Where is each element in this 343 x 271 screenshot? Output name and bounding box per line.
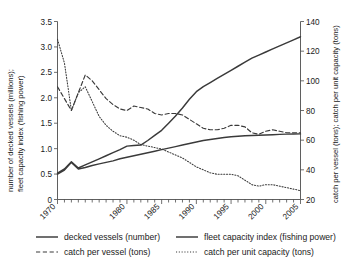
x-tick-label-group: 1970	[38, 202, 58, 222]
x-tick-label: 2000	[246, 202, 266, 222]
x-tick-label-group: 1980	[108, 202, 128, 222]
legend-label-3: catch per unit capacity (tons)	[204, 247, 314, 257]
y-tick-label: 1.5	[41, 119, 53, 128]
x-tick-label-group: 1995	[212, 202, 232, 222]
x-tick-label: 1980	[108, 202, 128, 222]
tick-labels-layer: 00.51.01.52.02.53.03.5204060801001201401…	[38, 18, 320, 222]
axes-layer	[58, 22, 301, 200]
y2-tick-label: 140	[306, 18, 320, 27]
chart-figure: number of decked vessels (millions); fle…	[0, 0, 343, 271]
y-axis-title-line2: fleet capacity index (fishing power)	[16, 75, 25, 192]
legend-label-0: decked vessels (number)	[64, 232, 160, 242]
y-tick-label: 3.5	[41, 18, 53, 27]
y2-tick-label: 100	[306, 77, 320, 86]
y-tick-label: 2.0	[41, 94, 53, 103]
series-line-0	[58, 134, 301, 174]
y2-tick-label: 20	[306, 196, 316, 205]
y-tick-label: 3.0	[41, 43, 53, 52]
y-tick-label: 0.5	[41, 170, 53, 179]
y-axis-title: number of decked vessels (millions); fle…	[6, 69, 25, 192]
y2-axis-title: catch per vessel (tons); catch per unit …	[331, 25, 340, 203]
legend-label-2: catch per vessel (tons)	[64, 247, 151, 257]
x-tick-label: 1995	[212, 202, 232, 222]
x-tick-label: 2005	[281, 202, 301, 222]
y2-tick-label: 60	[306, 136, 316, 145]
y2-tick-label: 40	[306, 166, 316, 175]
x-tick-label-group: 1990	[177, 202, 197, 222]
y-axis-title-line1: number of decked vessels (millions);	[6, 69, 15, 192]
legend-label-1: fleet capacity index (fishing power)	[204, 232, 336, 242]
y-tick-label: 1.0	[41, 145, 53, 154]
series-line-3	[58, 39, 301, 190]
x-tick-label-group: 2000	[246, 202, 266, 222]
y2-tick-label: 120	[306, 47, 320, 56]
x-tick-label: 1985	[142, 202, 162, 222]
y2-axis-title-text: catch per vessel (tons); catch per unit …	[331, 25, 340, 203]
y2-tick-label: 80	[306, 107, 316, 116]
x-tick-label: 1990	[177, 202, 197, 222]
y-tick-label: 2.5	[41, 68, 53, 77]
series-layer	[58, 37, 301, 191]
x-tick-label-group: 2005	[281, 202, 301, 222]
x-tick-label: 1970	[38, 202, 58, 222]
x-tick-label-group: 1985	[142, 202, 162, 222]
chart-legend: decked vessels (number)fleet capacity in…	[36, 232, 336, 257]
line-chart: number of decked vessels (millions); fle…	[0, 0, 343, 271]
